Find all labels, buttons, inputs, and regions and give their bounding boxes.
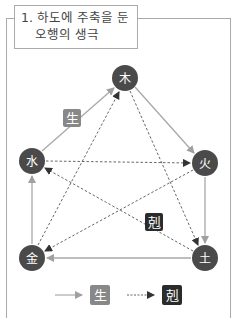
- badge-label: 生: [66, 111, 79, 126]
- legend-generate-badge: 生: [90, 285, 110, 305]
- node-fire: 火: [192, 150, 218, 176]
- arrow-earth-to-water: [45, 168, 193, 251]
- title-line-1: 1. 하도에 주축을 둔: [21, 10, 129, 25]
- node-label: 土: [199, 252, 211, 266]
- node-water: 水: [19, 148, 45, 174]
- legend-control-label: 剋: [166, 288, 179, 303]
- node-earth: 土: [192, 245, 218, 271]
- control-badge: 剋: [145, 213, 163, 231]
- node-label: 水: [26, 155, 38, 169]
- generate-badge: 生: [63, 109, 81, 127]
- generate-arrows: [32, 87, 205, 258]
- title-line-2: 오행의 생극: [21, 26, 137, 43]
- badge-label: 剋: [148, 215, 161, 230]
- arrow-wood-to-fire: [135, 87, 194, 153]
- legend-generate-label: 生: [94, 288, 107, 303]
- arrow-water-to-fire: [46, 161, 190, 163]
- title-box: 1. 하도에 주축을 둔 오행의 생극: [14, 5, 138, 49]
- node-metal: 金: [19, 245, 45, 271]
- node-wood: 木: [112, 65, 138, 91]
- legend: 生 剋: [55, 285, 182, 305]
- arrow-fire-to-metal: [45, 170, 193, 251]
- node-label: 木: [119, 72, 131, 86]
- legend-control-badge: 剋: [162, 285, 182, 305]
- node-label: 火: [199, 157, 211, 171]
- control-arrows: [38, 91, 198, 251]
- node-label: 金: [26, 251, 38, 266]
